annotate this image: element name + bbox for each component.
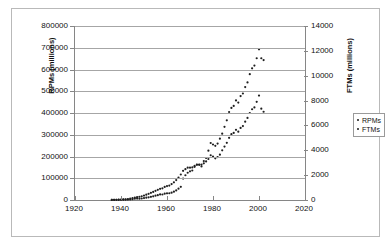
y-tick-label-left: 700000: [12, 44, 68, 52]
x-tick-label: 1920: [54, 205, 94, 213]
legend-marker-ftms-icon: [356, 125, 362, 134]
legend-item-rpms[interactable]: RPMs: [356, 116, 381, 125]
data-point: [141, 195, 143, 197]
gridline: [75, 157, 305, 158]
data-point: [166, 185, 168, 187]
x-tick-mark: [259, 196, 260, 200]
data-point: [154, 195, 156, 197]
data-point: [242, 92, 244, 94]
y-tick-mark-right: [304, 175, 308, 176]
data-point: [207, 158, 209, 160]
data-point: [246, 81, 248, 83]
y-tick-label-right: 8000: [311, 97, 329, 105]
y-tick-label-right: 4000: [311, 146, 329, 154]
data-point: [148, 193, 150, 195]
y-tick-label-right: 12000: [311, 47, 333, 55]
x-tick-label: 1980: [192, 205, 232, 213]
data-point: [184, 168, 186, 170]
data-point: [111, 199, 113, 201]
y-tick-mark-left: [70, 157, 74, 158]
data-point: [173, 191, 175, 193]
data-point: [237, 101, 239, 103]
data-point: [240, 127, 242, 129]
data-point: [260, 108, 262, 110]
data-point: [159, 188, 161, 190]
data-point: [166, 192, 168, 194]
data-point: [256, 101, 258, 103]
data-point: [136, 196, 138, 198]
data-point: [228, 137, 230, 139]
y-tick-mark-right: [304, 26, 308, 27]
data-point: [150, 192, 152, 194]
legend-item-ftms[interactable]: FTMs: [356, 125, 381, 134]
data-point: [249, 73, 251, 75]
y-tick-mark-right: [304, 51, 308, 52]
data-point: [157, 194, 159, 196]
legend-marker-rpms-icon: [356, 116, 362, 125]
y-axis-title-right: FTMs (millions): [345, 21, 354, 111]
data-point: [214, 145, 216, 147]
data-point: [150, 196, 152, 198]
y-tick-mark-left: [70, 48, 74, 49]
y-tick-label-left: 800000: [12, 22, 68, 30]
data-point: [260, 57, 262, 59]
data-point: [194, 165, 196, 167]
data-point: [189, 170, 191, 172]
y-tick-label-left: 200000: [12, 153, 68, 161]
x-tick-mark: [213, 196, 214, 200]
plot-area: [74, 26, 306, 201]
data-point: [233, 132, 235, 134]
data-point: [233, 105, 235, 107]
data-point: [210, 142, 212, 144]
data-point: [223, 126, 225, 128]
data-point: [191, 169, 193, 171]
data-point: [207, 150, 209, 152]
data-point: [196, 163, 198, 165]
data-point: [230, 107, 232, 109]
data-point: [161, 193, 163, 195]
y-tick-label-right: 14000: [311, 22, 333, 30]
gridline: [75, 178, 305, 179]
data-point: [246, 117, 248, 119]
y-tick-label-right: 6000: [311, 121, 329, 129]
data-point: [134, 197, 136, 199]
y-tick-label-left: 600000: [12, 66, 68, 74]
series-ftms: [111, 95, 265, 201]
data-point: [253, 106, 255, 108]
data-point: [171, 192, 173, 194]
data-point: [152, 195, 154, 197]
data-point: [242, 125, 244, 127]
data-point: [141, 197, 143, 199]
data-point: [226, 142, 228, 144]
y-tick-label-left: 300000: [12, 131, 68, 139]
chart-frame: RPMs (millions) FTMs (millions) 01000002…: [11, 8, 380, 237]
y-tick-label-left: 500000: [12, 87, 68, 95]
y-tick-mark-left: [70, 113, 74, 114]
data-point: [115, 199, 117, 201]
gridline: [75, 113, 305, 114]
y-tick-mark-right: [304, 150, 308, 151]
data-point: [200, 165, 202, 167]
y-tick-label-left: 0: [12, 196, 68, 204]
data-point: [175, 189, 177, 191]
y-tick-mark-right: [304, 125, 308, 126]
data-point: [253, 64, 255, 66]
data-point: [171, 183, 173, 185]
data-point: [237, 131, 239, 133]
data-point: [212, 143, 214, 145]
data-point: [148, 196, 150, 198]
data-point: [143, 194, 145, 196]
data-point: [203, 160, 205, 162]
data-point: [113, 199, 115, 201]
y-tick-mark-right: [304, 76, 308, 77]
y-tick-mark-left: [70, 178, 74, 179]
gridline: [75, 91, 305, 92]
data-point: [191, 166, 193, 168]
x-tick-mark: [121, 196, 122, 200]
data-point: [127, 198, 129, 200]
y-tick-label-right: 0: [311, 196, 315, 204]
data-point: [122, 198, 124, 200]
gridline: [75, 48, 305, 49]
x-tick-mark: [75, 196, 76, 200]
data-point: [187, 167, 189, 169]
